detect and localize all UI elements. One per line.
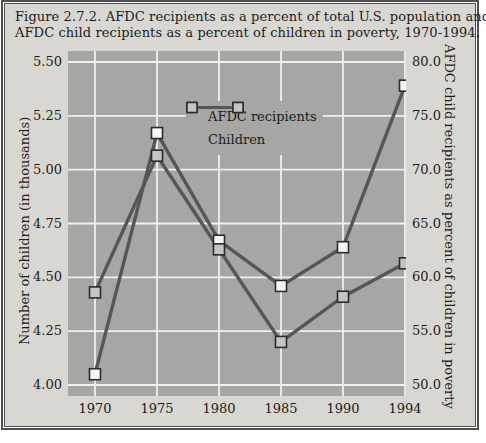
data-point-marker	[152, 150, 163, 161]
left-axis-tick-label: 4.75	[5, 216, 62, 232]
legend: AFDC recipients Children	[186, 101, 323, 155]
left-axis-tick-label: 5.25	[5, 108, 62, 124]
data-point-marker	[152, 128, 163, 139]
data-point-marker	[400, 80, 407, 91]
left-axis-tick-label: 4.00	[5, 377, 62, 393]
right-axis-tick-label: 50.0	[412, 377, 456, 393]
x-axis-tick-label: 1990	[317, 401, 369, 417]
data-point-marker	[276, 336, 287, 347]
x-axis-tick-label: 1994	[379, 401, 431, 417]
right-axis-tick-label: 70.0	[412, 162, 456, 178]
right-axis-tick-label: 60.0	[412, 269, 456, 285]
left-axis-tick-label: 5.50	[5, 54, 62, 70]
data-point-marker	[338, 291, 349, 302]
figure-canvas: Figure 2.7.2. AFDC recipients as a perce…	[0, 0, 486, 443]
x-axis-tick-label: 1985	[255, 401, 307, 417]
figure-frame-inner: Figure 2.7.2. AFDC recipients as a perce…	[4, 3, 476, 427]
legend-marker-gray-square	[186, 101, 244, 114]
data-point-marker	[90, 369, 101, 380]
right-axis-tick-label: 75.0	[412, 108, 456, 124]
left-axis-tick-label: 4.50	[5, 269, 62, 285]
data-point-marker	[90, 287, 101, 298]
plot-area: AFDC recipients Children	[68, 51, 406, 396]
data-point-marker	[214, 244, 225, 255]
figure-title-line-2: AFDC child recipients as a percent of ch…	[15, 25, 471, 41]
figure-content: Figure 2.7.2. AFDC recipients as a perce…	[5, 4, 475, 426]
legend-item-children: Children	[192, 128, 317, 151]
legend-label: Children	[208, 132, 265, 147]
data-point-marker	[400, 258, 407, 269]
data-point-marker	[276, 280, 287, 291]
data-point-marker	[338, 242, 349, 253]
right-axis-tick-label: 65.0	[412, 216, 456, 232]
figure-title-line-1: Figure 2.7.2. AFDC recipients as a perce…	[15, 9, 471, 25]
figure-frame-outer: Figure 2.7.2. AFDC recipients as a perce…	[1, 0, 479, 430]
x-axis-tick-label: 1970	[69, 401, 121, 417]
series-line-children	[95, 156, 405, 342]
figure-title: Figure 2.7.2. AFDC recipients as a perce…	[15, 9, 471, 41]
right-axis-tick-label: 55.0	[412, 323, 456, 339]
right-axis-tick-label: 80.0	[412, 54, 456, 70]
left-axis-tick-label: 4.25	[5, 323, 62, 339]
x-axis-tick-label: 1980	[193, 401, 245, 417]
left-axis-tick-label: 5.00	[5, 162, 62, 178]
x-axis-tick-label: 1975	[131, 401, 183, 417]
